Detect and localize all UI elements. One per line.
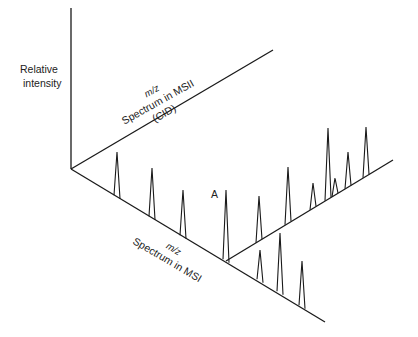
spectrum-peak (345, 152, 351, 189)
msii-axis-cid (226, 160, 393, 261)
peak-a (223, 190, 229, 263)
msms-diagram: Relative intensity m/z Spectrum in MSII … (0, 0, 418, 337)
y-axis-label-line1: Relative (20, 63, 58, 75)
peak-a-label: A (211, 188, 218, 200)
spectrum-peak (277, 233, 283, 295)
spectrum-peak (149, 168, 155, 220)
spectrum-peak (180, 190, 186, 239)
spectrum-peak (114, 152, 120, 199)
spectrum-peak (299, 261, 305, 309)
y-axis-label-line2: intensity (23, 77, 62, 89)
spectrum-peak (285, 167, 291, 225)
msi-axis-label: m/z Spectrum in MSI (131, 224, 210, 284)
spectrum-peak (256, 196, 262, 243)
spectrum-peak (325, 128, 331, 201)
spectrum-peak (363, 127, 369, 178)
spectrum-peak (257, 250, 263, 283)
msii-axis-label: m/z Spectrum in MSII (CID) (114, 66, 202, 137)
spectrum-peak (310, 183, 316, 210)
